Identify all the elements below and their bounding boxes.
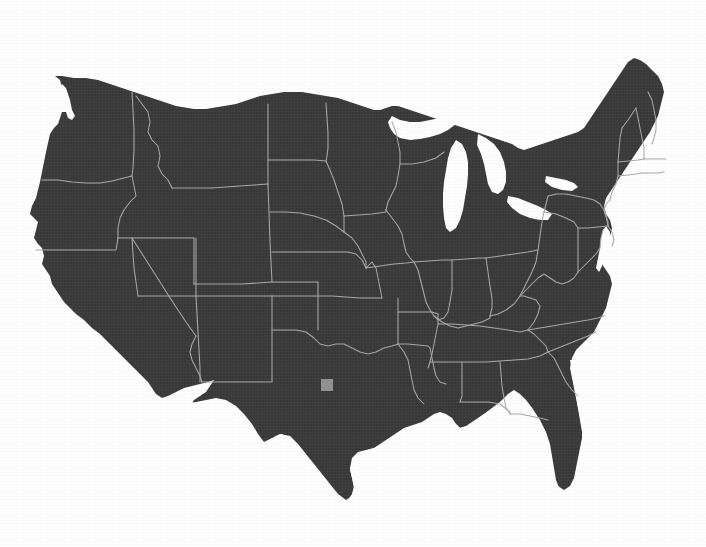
us-states-map <box>0 0 706 547</box>
us-map-figure <box>0 0 706 547</box>
location-marker[interactable] <box>321 379 333 391</box>
border-ma-south <box>642 172 664 173</box>
delaware-bay <box>612 214 622 224</box>
